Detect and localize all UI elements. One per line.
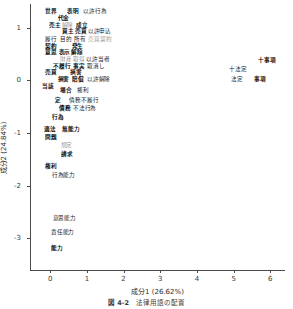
scatter-point-label: 十事項 [258,57,275,63]
x-tick-label: 4 [195,275,199,283]
scatter-point-label: 債務不履行 [69,97,98,103]
x-tick-label: 3 [158,275,162,283]
scatter-point-label: 意思能力 [53,215,76,221]
scatter-point-label: 発生 [72,43,84,49]
y-axis-line [30,4,31,270]
scatter-point-label: 所有 [74,36,86,42]
scatter-point-label: 問題 [45,134,57,140]
scatter-point-label: 無能力 [62,126,79,132]
scatter-point-label: 事項 [254,76,266,82]
scatter-point-label: 解除 [71,49,83,55]
scatter-point-label: 場合 [60,87,72,93]
y-tick-label: 1 [17,24,21,32]
y-tick-label: -1 [14,129,21,137]
scatter-point-label: 以許行為 [83,8,106,14]
scatter-point-label: 以許申込 [88,28,111,34]
scatter-point-label: 売買 [45,69,57,75]
y-axis-title: 成分2 (24.84%) [0,122,8,175]
x-tick-label: 6 [268,275,272,283]
scatter-point-label: 買主 [62,28,74,34]
scatter-point-label: 行為能力 [52,172,75,178]
scatter-point-label: 表示 [59,49,71,55]
figure-container: 0123456 10-1-2-3 世界表明以許行為代金売主解除成立買主売買以許申… [0,0,293,309]
scatter-point-label: 行為 [52,114,64,120]
y-tick-label: 0 [17,76,21,84]
x-tick-mark [160,270,161,273]
y-tick-label: -3 [14,234,21,242]
scatter-point-label: 損害 [58,76,70,82]
scatter-point-label: 損害 [70,69,82,75]
scatter-point-label: 当該 [42,83,54,89]
figure-caption: 図 4-2 法律用語の配置 [0,297,293,307]
scatter-point-label: 能力 [51,245,63,251]
scatter-point-label: 以許解除 [87,76,110,82]
x-tick-mark [197,270,198,273]
scatter-point-label: 目的 [60,36,72,42]
caption-number: 図 4-2 [108,299,129,307]
scatter-plot-area: 0123456 10-1-2-3 世界表明以許行為代金売主解除成立買主売買以許申… [30,4,285,270]
y-tick-mark [27,133,30,134]
scatter-point-label: 事実 [73,63,85,69]
scatter-point-label: 意思 [45,49,57,55]
scatter-point-label: 請求 [61,151,73,157]
scatter-point-label: 十法定 [229,66,246,72]
scatter-point-label: 債務 [59,105,71,111]
scatter-point-label: 世界 [45,8,57,14]
x-tick-mark [87,270,88,273]
x-tick-label: 2 [121,275,125,283]
scatter-point-label: 表明 [67,8,79,14]
x-tick-mark [50,270,51,273]
scatter-point-label: 成立 [76,22,88,28]
caption-text: 法律用語の配置 [136,299,185,307]
y-tick-mark [27,186,30,187]
scatter-point-label: 不履行 [53,63,70,69]
scatter-point-label: 法定 [231,76,243,82]
scatter-point-label: 不法行為 [73,105,96,111]
y-tick-mark [27,80,30,81]
x-tick-label: 1 [85,275,89,283]
y-tick-mark [27,238,30,239]
scatter-point-label: 規定 [61,142,73,148]
scatter-point-label: 売買契約 [88,36,111,42]
x-tick-mark [270,270,271,273]
scatter-point-label: 代金 [58,15,70,21]
scatter-point-label: 以許当者 [86,56,109,62]
scatter-point-label: 取消し [87,63,104,69]
x-axis-line [30,270,285,271]
scatter-point-label: 履行 [45,36,57,42]
x-tick-mark [124,270,125,273]
scatter-point-label: 賠償 [72,76,84,82]
scatter-point-label: 責任能力 [51,229,74,235]
scatter-point-label: 取得 [73,56,85,62]
scatter-point-label: 権利 [77,87,89,93]
scatter-point-label: 財産 [60,56,72,62]
scatter-point-label: 売買 [75,28,87,34]
scatter-point-label: 契約 [45,43,57,49]
scatter-point-label: 定 [55,97,61,103]
scatter-point-label: 売主 [49,22,61,28]
x-axis-title: 成分1 (26.62%) [30,286,285,296]
y-tick-label: -2 [14,182,21,190]
scatter-point-label: 権利 [45,163,57,169]
scatter-point-label: 適法 [44,126,56,132]
x-tick-label: 5 [231,275,235,283]
scatter-point-label: 解除 [62,22,74,28]
x-tick-mark [234,270,235,273]
y-tick-mark [27,28,30,29]
x-tick-label: 0 [48,275,52,283]
